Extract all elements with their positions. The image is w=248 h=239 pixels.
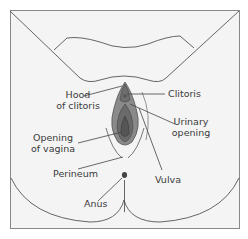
label-hood-line1: Hood [55,89,101,100]
label-urinary-opening: Urinary opening [168,116,214,138]
label-hood-line2: of clitoris [55,100,101,111]
label-vulva-line1: Vulva [155,174,181,185]
label-vagina-line1: Opening [30,132,76,143]
label-urinary-line2: opening [168,127,214,138]
label-clitoris: Clitoris [168,88,201,99]
anus-dot [122,172,127,178]
label-opening-of-vagina: Opening of vagina [30,132,76,154]
label-vulva: Vulva [155,174,181,185]
vulva-diagram: Hood of clitoris Clitoris Urinary openin… [0,0,248,239]
label-perineum-line1: Perineum [53,168,98,179]
label-urinary-line1: Urinary [168,116,214,127]
label-vagina-line2: of vagina [30,143,76,154]
label-anus: Anus [84,198,108,209]
label-perineum: Perineum [53,168,98,179]
label-clitoris-line1: Clitoris [168,88,201,99]
clitoris-glans [123,94,127,98]
label-anus-line1: Anus [84,198,108,209]
label-hood-of-clitoris: Hood of clitoris [55,89,101,111]
